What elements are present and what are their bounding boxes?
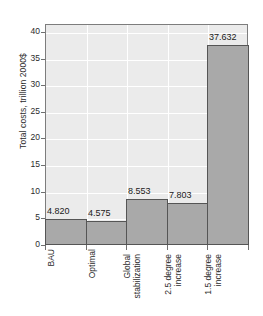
bar-chart: Total costs, trillion 2000$ 051015202530… xyxy=(0,0,263,316)
bar[interactable] xyxy=(207,45,249,245)
x-axis-labels: BAUOptimalGlobal stabilization2.5 degree… xyxy=(45,250,248,316)
x-category-label: 1.5 degree increase xyxy=(207,250,263,262)
y-tick-label: 0 xyxy=(14,239,40,249)
x-category-label-text: 2.5 degree increase xyxy=(163,254,183,316)
y-axis-label: Total costs, trillion 2000$ xyxy=(18,26,28,176)
bar[interactable] xyxy=(167,203,209,245)
bar-value-label: 4.820 xyxy=(47,206,70,216)
y-tick-label: 20 xyxy=(14,132,40,142)
y-tick-label: 5 xyxy=(14,212,40,222)
x-category-label-text: 1.5 degree increase xyxy=(203,254,223,316)
bar[interactable] xyxy=(86,221,128,245)
x-category-label-text: BAU xyxy=(46,249,56,315)
y-tick-label: 15 xyxy=(14,159,40,169)
y-tick-label: 25 xyxy=(14,106,40,116)
bar[interactable] xyxy=(126,199,168,245)
bar[interactable] xyxy=(45,219,87,245)
bar-value-label: 7.803 xyxy=(169,190,192,200)
bar-value-label: 37.632 xyxy=(209,32,237,42)
x-category-label-text: Global stabilization xyxy=(122,254,142,316)
bars-layer xyxy=(45,24,248,245)
bar-value-label: 4.575 xyxy=(88,208,111,218)
x-category-label-text: Optimal xyxy=(87,249,97,315)
y-tick-label: 10 xyxy=(14,186,40,196)
y-tick-label: 35 xyxy=(14,53,40,63)
y-tick-label: 40 xyxy=(14,26,40,36)
bar-value-label: 8.553 xyxy=(128,186,151,196)
y-tick-label: 30 xyxy=(14,79,40,89)
